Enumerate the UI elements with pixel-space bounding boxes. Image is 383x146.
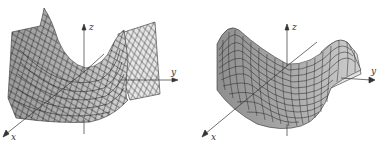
z-axis-label: z: [88, 22, 94, 32]
y-arrow-icon: [369, 77, 375, 83]
y-axis-label: y: [370, 66, 377, 76]
z-axis-label: z: [291, 22, 297, 32]
x-axis-label: x: [211, 132, 216, 142]
z-arrow-icon: [285, 24, 289, 30]
saddle-surface-right: z y x: [191, 0, 383, 146]
x-arrow-icon: [202, 130, 208, 137]
y-axis-label: y: [170, 67, 177, 77]
z-arrow-icon: [82, 24, 86, 30]
x-axis-label: x: [11, 132, 16, 142]
saddle-surface-left: z y x: [0, 0, 191, 146]
saddle-plot-right: z y x: [191, 0, 383, 146]
y-arrow-icon: [172, 78, 178, 82]
saddle-plot-left: z y x: [0, 0, 191, 146]
x-arrow-icon: [3, 130, 9, 137]
